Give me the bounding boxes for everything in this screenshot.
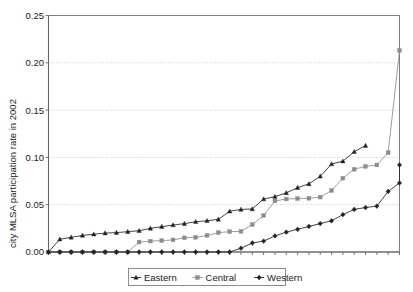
legend-label-central: Central: [206, 272, 237, 283]
chart-legend: EasternCentralWestern: [129, 269, 303, 286]
y-tick-label-0.20: 0.20: [26, 57, 45, 68]
legend-items: EasternCentralWestern: [131, 272, 302, 283]
chart-container: city MLSA participation rate in 2002 0.0…: [0, 0, 413, 292]
data-point-square: [296, 197, 300, 201]
data-point-square: [318, 195, 322, 199]
data-point-square: [216, 231, 220, 235]
data-point-square: [228, 230, 232, 234]
data-point-square: [239, 229, 243, 233]
data-point-square: [182, 236, 186, 240]
data-point-square: [273, 199, 277, 203]
data-point-square: [375, 163, 379, 167]
y-axis-tick-labels: 0.000.050.100.150.200.25: [26, 10, 45, 258]
line-chart: city MLSA participation rate in 2002 0.0…: [0, 0, 413, 292]
data-point-square: [250, 223, 254, 227]
data-point-square: [341, 176, 345, 180]
y-tick-label-0.05: 0.05: [26, 199, 45, 210]
data-point-square: [262, 214, 266, 218]
legend-label-western: Western: [267, 272, 302, 283]
data-point-square: [205, 234, 209, 238]
data-point-square: [307, 196, 311, 200]
y-tick-label-0.00: 0.00: [26, 246, 45, 257]
y-tick-label-0.15: 0.15: [26, 105, 45, 116]
data-point-square: [364, 164, 368, 168]
plot-area-border: [49, 16, 400, 253]
data-point-square: [284, 197, 288, 201]
legend-label-eastern: Eastern: [144, 272, 177, 283]
data-point-square: [352, 167, 356, 171]
data-point-square: [149, 239, 153, 243]
data-point-square: [196, 276, 200, 280]
data-point-square: [171, 238, 175, 242]
data-point-square: [386, 151, 390, 155]
data-point-square: [398, 49, 402, 53]
data-point-square: [137, 240, 141, 244]
data-point-square: [194, 235, 198, 239]
y-axis-title: city MLSA participation rate in 2002: [7, 99, 18, 248]
data-point-square: [160, 239, 164, 243]
data-point-square: [330, 189, 334, 193]
y-tick-label-0.25: 0.25: [26, 10, 45, 21]
y-tick-label-0.10: 0.10: [26, 152, 45, 163]
